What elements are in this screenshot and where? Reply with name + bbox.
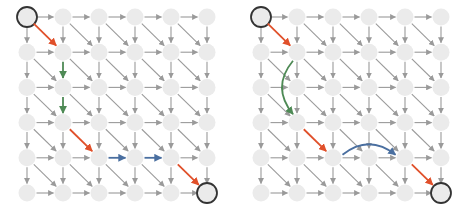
lattice-edge-arrow bbox=[340, 129, 362, 151]
lattice-node bbox=[253, 79, 270, 96]
lattice-node bbox=[127, 114, 144, 131]
lattice-edge-arrow bbox=[376, 164, 398, 186]
lattice-edge-arrow bbox=[376, 94, 398, 116]
lattice-node bbox=[199, 114, 216, 131]
lattice-edge-arrow bbox=[106, 94, 128, 116]
lattice-edge-arrow bbox=[412, 59, 434, 81]
lattice-node bbox=[397, 114, 414, 131]
lattice-edge-arrow bbox=[376, 129, 398, 151]
lattice-node bbox=[325, 114, 342, 131]
lattice-node bbox=[289, 79, 306, 96]
lattice-node bbox=[325, 44, 342, 61]
lattice-edge-arrow bbox=[340, 94, 362, 116]
lattice-node bbox=[433, 79, 450, 96]
lattice-edge-arrow bbox=[34, 129, 56, 151]
left-panel bbox=[17, 7, 217, 203]
lattice-node bbox=[55, 44, 72, 61]
lattice-node bbox=[199, 149, 216, 166]
lattice-node bbox=[199, 44, 216, 61]
lattice-node bbox=[397, 149, 414, 166]
lattice-node bbox=[397, 185, 414, 202]
lattice-node bbox=[91, 44, 108, 61]
lattice-node bbox=[289, 9, 306, 26]
diagonal-path-arrow bbox=[70, 129, 92, 151]
lattice-node bbox=[325, 149, 342, 166]
lattice-node bbox=[163, 9, 180, 26]
lattice-edge-arrow bbox=[412, 94, 434, 116]
diagram-svg bbox=[0, 0, 466, 210]
lattice-edge-arrow bbox=[178, 129, 200, 151]
lattice-edge-arrow bbox=[34, 59, 56, 81]
lattice-node bbox=[361, 185, 378, 202]
lattice-node bbox=[163, 149, 180, 166]
lattice-node bbox=[325, 79, 342, 96]
lattice-node bbox=[127, 149, 144, 166]
lattice-node bbox=[127, 44, 144, 61]
lattice-edge-arrow bbox=[70, 94, 92, 116]
lattice-node bbox=[433, 114, 450, 131]
lattice-node bbox=[289, 185, 306, 202]
lattice-node bbox=[91, 9, 108, 26]
lattice-node bbox=[55, 185, 72, 202]
lattice-node bbox=[19, 79, 36, 96]
lattice-edge-arrow bbox=[106, 59, 128, 81]
lattice-edge-arrow bbox=[106, 129, 128, 151]
lattice-edge-arrow bbox=[70, 24, 92, 46]
lattice-edge-arrow bbox=[70, 59, 92, 81]
end-node bbox=[431, 183, 451, 203]
lattice-edge-arrow bbox=[268, 164, 290, 186]
lattice-edge-arrow bbox=[304, 164, 326, 186]
lattice-edge-arrow bbox=[340, 164, 362, 186]
diagonal-path-arrow bbox=[34, 24, 56, 46]
lattice-edge-arrow bbox=[340, 24, 362, 46]
lattice-node bbox=[433, 9, 450, 26]
diagonal-path-arrow bbox=[412, 164, 433, 185]
lattice-node bbox=[163, 185, 180, 202]
lattice-node bbox=[55, 79, 72, 96]
lattice-node bbox=[19, 114, 36, 131]
lattice-node bbox=[199, 79, 216, 96]
lattice-edge-arrow bbox=[178, 59, 200, 81]
lattice-node bbox=[361, 9, 378, 26]
lattice-node bbox=[163, 44, 180, 61]
lattice-edge-arrow bbox=[178, 24, 200, 46]
diagonal-path-arrow bbox=[304, 129, 326, 151]
lattice-node bbox=[289, 44, 306, 61]
lattice-node bbox=[325, 9, 342, 26]
lattice-node bbox=[253, 114, 270, 131]
lattice-edge-arrow bbox=[34, 94, 56, 116]
lattice-node bbox=[289, 114, 306, 131]
lattice-node bbox=[397, 79, 414, 96]
lattice-edge-arrow bbox=[268, 129, 290, 151]
lattice-node bbox=[55, 114, 72, 131]
lattice-node bbox=[361, 114, 378, 131]
lattice-node bbox=[397, 9, 414, 26]
lattice-node bbox=[127, 9, 144, 26]
lattice-edge-arrow bbox=[142, 164, 164, 186]
diagonal-path-arrow bbox=[178, 164, 199, 185]
lattice-edge-arrow bbox=[304, 94, 326, 116]
lattice-edge-arrow bbox=[376, 24, 398, 46]
lattice-edge-arrow bbox=[412, 129, 434, 151]
lattice-node bbox=[253, 149, 270, 166]
lattice-edge-arrow bbox=[142, 59, 164, 81]
lattice-node bbox=[253, 185, 270, 202]
lattice-edge-arrow bbox=[70, 164, 92, 186]
lattice-node bbox=[127, 79, 144, 96]
lattice-node bbox=[199, 9, 216, 26]
lattice-edge-arrow bbox=[304, 59, 326, 81]
lattice-node bbox=[361, 44, 378, 61]
lattice-node bbox=[361, 79, 378, 96]
lattice-edge-arrow bbox=[376, 59, 398, 81]
lattice-edge-arrow bbox=[106, 24, 128, 46]
lattice-edge-arrow bbox=[412, 24, 434, 46]
lattice-node bbox=[55, 9, 72, 26]
lattice-edge-arrow bbox=[178, 94, 200, 116]
lattice-node bbox=[91, 114, 108, 131]
lattice-edge-arrow bbox=[304, 24, 326, 46]
lattice-edge-arrow bbox=[34, 164, 56, 186]
lattice-edge-arrow bbox=[106, 164, 128, 186]
lattice-node bbox=[19, 149, 36, 166]
right-panel bbox=[251, 7, 451, 203]
lattice-node bbox=[325, 185, 342, 202]
